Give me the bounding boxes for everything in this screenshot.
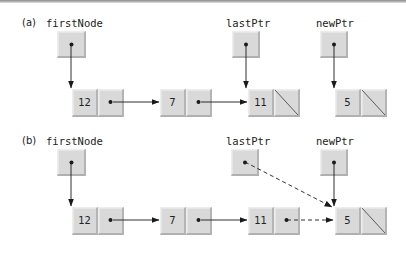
- pointer-box-newPtr: [320, 31, 348, 58]
- node-data-cell: 5: [335, 89, 361, 117]
- node-data-cell: 11: [248, 89, 274, 117]
- pointer-box-lastPtr: [232, 31, 260, 58]
- panel-label-a: (a): [22, 17, 36, 29]
- pointer-label-firstNode: firstNode: [46, 17, 103, 29]
- node-data-cell: 5: [335, 207, 361, 235]
- node-data-cell: 12: [72, 89, 98, 117]
- pointer-label-firstNode: firstNode: [46, 135, 103, 147]
- pointer-label-lastPtr: lastPtr: [226, 135, 270, 147]
- node-data-cell: 7: [160, 89, 186, 117]
- node-data-cell: 7: [160, 207, 186, 235]
- pointer-box-firstNode: [57, 149, 86, 176]
- panel-label-b: (b): [22, 135, 36, 147]
- node-next-pointer-cell: [186, 89, 212, 117]
- node-data-cell: 11: [248, 207, 274, 235]
- node-next-pointer-cell: [98, 207, 124, 235]
- pointer-box-newPtr: [320, 149, 348, 176]
- top-rule: [0, 0, 406, 3]
- node-null-pointer-cell: [361, 207, 387, 235]
- pointer-box-lastPtr: [231, 149, 259, 176]
- pointer-label-newPtr: newPtr: [316, 17, 354, 29]
- pointer-label-newPtr: newPtr: [316, 135, 354, 147]
- pointer-box-firstNode: [57, 31, 86, 58]
- pointer-label-lastPtr: lastPtr: [226, 17, 270, 29]
- node-next-pointer-cell: [98, 89, 124, 117]
- node-null-pointer-cell: [274, 89, 300, 117]
- node-data-cell: 12: [72, 207, 98, 235]
- node-null-pointer-cell: [361, 89, 387, 117]
- node-next-pointer-cell: [274, 207, 300, 235]
- node-next-pointer-cell: [186, 207, 212, 235]
